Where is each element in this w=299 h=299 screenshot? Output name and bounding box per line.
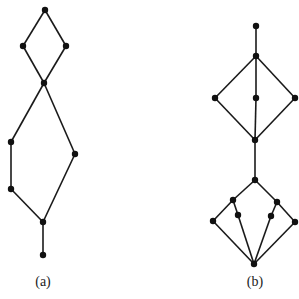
node-b6 xyxy=(252,137,258,143)
node-a2 xyxy=(20,43,26,49)
node-b7 xyxy=(252,177,258,183)
node-b12 xyxy=(268,213,274,219)
edge-b10-b14 xyxy=(213,221,254,264)
node-a9 xyxy=(40,252,46,258)
node-a3 xyxy=(63,43,69,49)
edge-a1-a2 xyxy=(23,10,45,46)
node-b9 xyxy=(274,199,280,205)
edge-b2-b5 xyxy=(256,56,295,98)
node-b8 xyxy=(230,197,236,203)
node-a8 xyxy=(40,219,46,225)
node-b3 xyxy=(212,95,218,101)
graph-b-label: (b) xyxy=(247,274,263,290)
edge-b7-b8 xyxy=(233,180,255,200)
lattice-diagrams xyxy=(0,0,299,299)
node-a1 xyxy=(42,7,48,13)
edge-b13-b14 xyxy=(254,222,295,264)
node-a5 xyxy=(8,139,14,145)
edge-b9-b13 xyxy=(277,202,295,222)
edge-b8-b10 xyxy=(213,200,233,221)
edge-a4-a5 xyxy=(11,83,44,142)
graph-a-label: (a) xyxy=(35,274,51,290)
edge-b7-b9 xyxy=(255,180,277,202)
graph-a xyxy=(8,7,78,258)
edge-b4-b6 xyxy=(255,98,256,140)
edge-a3-a4 xyxy=(44,46,66,83)
node-b4 xyxy=(253,95,259,101)
edge-b2-b3 xyxy=(215,56,256,98)
node-b14 xyxy=(251,261,257,267)
edge-a6-a8 xyxy=(43,154,75,222)
edge-b3-b6 xyxy=(215,98,255,140)
node-b2 xyxy=(253,53,259,59)
node-b13 xyxy=(292,219,298,225)
edge-b5-b6 xyxy=(255,98,295,140)
edge-a2-a4 xyxy=(23,46,44,83)
node-a6 xyxy=(72,151,78,157)
node-b11 xyxy=(235,212,241,218)
edge-b12-b14 xyxy=(254,216,271,264)
node-b1 xyxy=(253,23,259,29)
node-a7 xyxy=(8,186,14,192)
edge-a4-a6 xyxy=(44,83,75,154)
graph-b xyxy=(210,23,298,267)
node-a4 xyxy=(41,80,47,86)
node-b5 xyxy=(292,95,298,101)
edge-a1-a3 xyxy=(45,10,66,46)
edge-a7-a8 xyxy=(11,189,43,222)
node-b10 xyxy=(210,218,216,224)
